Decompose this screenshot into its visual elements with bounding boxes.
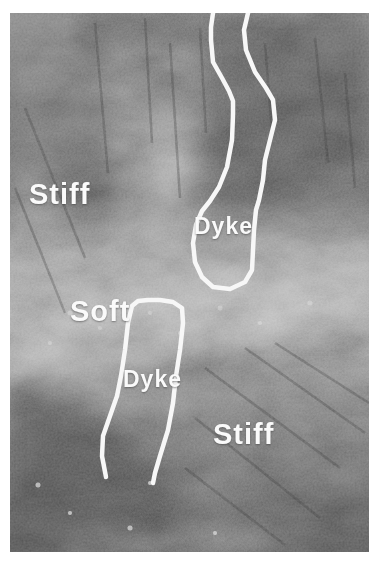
outcrop-photo: Stiff Soft Dyke Dyke Stiff: [10, 13, 369, 552]
label-stiff-lower: Stiff: [213, 420, 274, 449]
figure-page: Stiff Soft Dyke Dyke Stiff: [0, 0, 379, 567]
rock-texture-canvas: [10, 13, 369, 552]
label-stiff-upper: Stiff: [29, 180, 90, 209]
label-dyke-upper: Dyke: [194, 215, 253, 238]
label-dyke-lower: Dyke: [123, 368, 182, 391]
rock-grain-texture: [10, 13, 369, 552]
label-soft: Soft: [70, 297, 130, 326]
